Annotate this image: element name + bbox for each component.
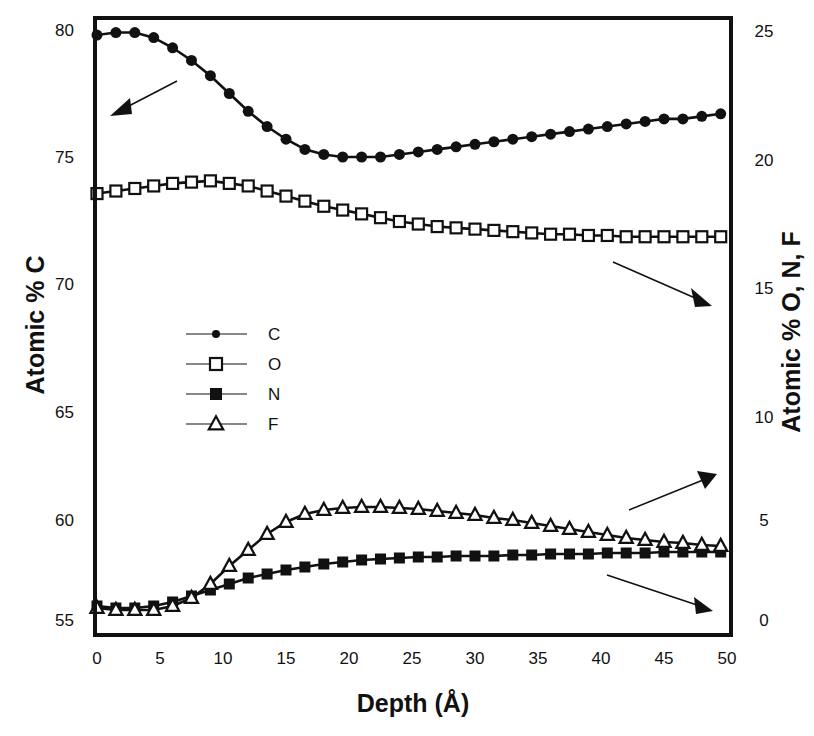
marker-filled-circle-icon	[212, 330, 220, 338]
marker-filled-square-icon	[564, 549, 575, 560]
marker-open-square-icon	[337, 205, 348, 216]
marker-open-square-icon	[318, 201, 329, 212]
y-right-tick-label: 5	[759, 511, 768, 530]
series-layer	[90, 27, 727, 615]
marker-open-square-icon	[186, 177, 197, 188]
marker-filled-square-icon	[640, 548, 651, 559]
marker-open-square-icon	[526, 227, 537, 238]
marker-filled-square-icon	[210, 388, 222, 400]
x-tick-label: 5	[155, 649, 164, 668]
x-tick-label: 45	[655, 649, 674, 668]
legend-item-O: O	[186, 355, 281, 374]
y-axis-left-title: Atomic % C	[21, 256, 49, 395]
marker-filled-square-icon	[394, 553, 405, 564]
legend-item-F: F	[186, 415, 278, 434]
y-left-tick-label: 70	[55, 275, 74, 294]
marker-open-triangle-icon	[261, 527, 274, 539]
marker-open-square-icon	[696, 231, 707, 242]
marker-filled-square-icon	[507, 550, 518, 561]
marker-filled-circle-icon	[545, 129, 556, 140]
x-tick-label: 10	[214, 649, 233, 668]
marker-filled-circle-icon	[659, 113, 670, 124]
marker-filled-square-icon	[470, 551, 481, 562]
marker-filled-circle-icon	[526, 131, 537, 142]
marker-open-square-icon	[167, 178, 178, 189]
marker-filled-square-icon	[602, 548, 613, 559]
y-right-tick-label: 20	[755, 151, 774, 170]
marker-filled-circle-icon	[148, 32, 159, 43]
arrow-c-left	[125, 81, 177, 108]
marker-open-square-icon	[507, 226, 518, 237]
marker-filled-circle-icon	[451, 141, 462, 152]
marker-filled-circle-icon	[224, 88, 235, 99]
y-left-tick-label: 60	[55, 511, 74, 530]
y-axis-right-title: Atomic % O, N, F	[777, 231, 805, 432]
x-tick-label: 40	[592, 649, 611, 668]
y-right-tick-label: 0	[759, 611, 768, 630]
marker-filled-circle-icon	[110, 27, 121, 38]
x-tick-label: 0	[92, 649, 101, 668]
marker-open-square-icon	[299, 196, 310, 207]
marker-filled-circle-icon	[262, 121, 273, 132]
marker-open-square-icon	[224, 178, 235, 189]
marker-open-square-icon	[659, 231, 670, 242]
marker-open-square-icon	[621, 231, 632, 242]
marker-open-square-icon	[640, 231, 651, 242]
marker-filled-circle-icon	[640, 116, 651, 127]
marker-open-square-icon	[148, 180, 159, 191]
marker-open-square-icon	[432, 221, 443, 232]
legend-label: C	[268, 325, 280, 344]
marker-filled-circle-icon	[507, 134, 518, 145]
marker-filled-square-icon	[281, 565, 292, 576]
marker-filled-square-icon	[621, 548, 632, 559]
x-axis-title: Depth (Å)	[357, 689, 469, 717]
marker-filled-circle-icon	[337, 152, 348, 163]
marker-filled-square-icon	[356, 555, 367, 566]
x-tick-label: 20	[340, 649, 359, 668]
marker-filled-circle-icon	[186, 55, 197, 66]
marker-filled-square-icon	[432, 552, 443, 563]
legend: CONF	[186, 325, 281, 434]
y-left-tick-label: 80	[55, 21, 74, 40]
marker-open-square-icon	[564, 229, 575, 240]
marker-filled-square-icon	[545, 549, 556, 560]
marker-open-square-icon	[470, 224, 481, 235]
marker-filled-circle-icon	[318, 149, 329, 160]
x-tick-label: 15	[277, 649, 296, 668]
y-axis-left-ticks: 807570656055	[55, 21, 74, 630]
marker-filled-circle-icon	[356, 152, 367, 163]
marker-filled-circle-icon	[696, 111, 707, 122]
marker-filled-circle-icon	[677, 113, 688, 124]
x-tick-label: 25	[403, 649, 422, 668]
x-tick-label: 50	[718, 649, 737, 668]
marker-open-square-icon	[488, 225, 499, 236]
marker-filled-square-icon	[488, 551, 499, 562]
arrowhead-icon	[697, 471, 717, 489]
arrowhead-icon	[110, 98, 132, 116]
arrowhead-icon	[691, 288, 712, 307]
marker-open-square-icon	[583, 230, 594, 241]
legend-label: F	[268, 415, 278, 434]
x-tick-label: 35	[529, 649, 548, 668]
marker-open-square-icon	[413, 219, 424, 230]
y-right-tick-label: 15	[755, 279, 774, 298]
arrow-f-right	[629, 480, 703, 510]
chart-canvas: 05101520253035404550 807570656055 252015…	[0, 0, 814, 736]
marker-filled-circle-icon	[488, 136, 499, 147]
marker-open-square-icon	[262, 186, 273, 197]
marker-filled-square-icon	[451, 551, 462, 562]
marker-filled-circle-icon	[470, 139, 481, 150]
marker-open-square-icon	[451, 222, 462, 233]
marker-filled-circle-icon	[715, 108, 726, 119]
marker-filled-circle-icon	[129, 27, 140, 38]
y-left-tick-label: 65	[55, 403, 74, 422]
marker-filled-circle-icon	[394, 149, 405, 160]
marker-filled-circle-icon	[621, 118, 632, 129]
marker-open-square-icon	[129, 183, 140, 194]
x-tick-label: 30	[466, 649, 485, 668]
legend-label: N	[268, 385, 280, 404]
marker-filled-square-icon	[659, 547, 670, 558]
series-line	[97, 33, 721, 157]
marker-filled-circle-icon	[375, 152, 386, 163]
marker-filled-circle-icon	[281, 134, 292, 145]
